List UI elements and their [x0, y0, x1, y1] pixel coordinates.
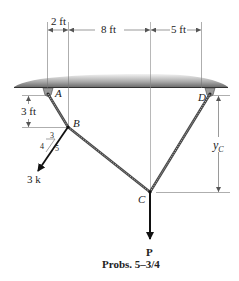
ceiling: [14, 74, 228, 87]
dim-8ft: 8 ft: [101, 23, 116, 35]
diagram-canvas: [0, 0, 239, 281]
dim-yc-sub: C: [218, 145, 223, 154]
point-b-label: B: [73, 117, 80, 129]
point-a-label: A: [55, 87, 62, 99]
cable-bc: [68, 127, 150, 192]
point-d-label: D: [198, 91, 206, 103]
figure-caption: Probs. 5–3/4: [102, 258, 160, 270]
slope-vertical: 4: [40, 142, 44, 151]
slope-hypotenuse: 5: [55, 144, 59, 153]
dim-5ft: 5 ft: [171, 23, 186, 35]
force-3k-label: 3 k: [27, 173, 41, 185]
dim-2ft: 2 ft: [51, 15, 66, 27]
slope-horizontal: 3: [50, 131, 54, 140]
dim-3ft: 3 ft: [21, 105, 36, 117]
dim-yc: yC: [213, 138, 224, 154]
load-p-label: P: [146, 246, 153, 258]
cable-cd: [150, 94, 210, 192]
point-c-label: C: [138, 193, 145, 205]
